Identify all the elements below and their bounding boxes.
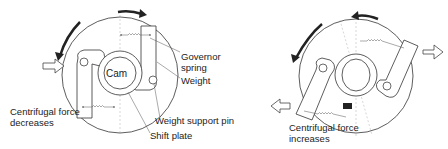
rotation-arrow-left-right — [296, 24, 322, 58]
governor-spring-label-line2: spring — [181, 62, 207, 73]
rotation-arrow-top-right — [356, 15, 378, 19]
governor-spring-label-line1: Governor — [181, 51, 221, 62]
force-decreases-label-line2: decreases — [10, 117, 54, 128]
right-weight-pin — [149, 76, 157, 84]
cam-label: Cam — [106, 68, 127, 79]
inward-force-arrow-icon — [43, 59, 64, 73]
left-weight-pin — [80, 58, 88, 66]
governor-diagram: Cam Governor spring Weight Weight suppor… — [0, 0, 448, 149]
right-cam — [342, 59, 370, 91]
outward-force-arrow-left-icon — [271, 99, 290, 113]
force-increases-label-line1: Centrifugal force — [289, 122, 359, 133]
right-left-weight — [296, 58, 335, 120]
weight-label: Weight — [181, 75, 211, 86]
outward-force-arrow-right-icon — [423, 45, 443, 59]
rotation-arrow-left — [60, 22, 80, 56]
right-governor-assembly — [271, 11, 443, 138]
stopper-block — [343, 103, 352, 109]
weight-support-pin-label: Weight support pin — [155, 115, 234, 126]
force-increases-label-line2: increases — [289, 133, 330, 144]
rotation-arrow-top — [118, 11, 142, 14]
shift-plate-label: Shift plate — [150, 130, 192, 141]
right-upper-spring — [360, 40, 404, 49]
force-decreases-label-line1: Centrifugal force — [10, 106, 80, 117]
